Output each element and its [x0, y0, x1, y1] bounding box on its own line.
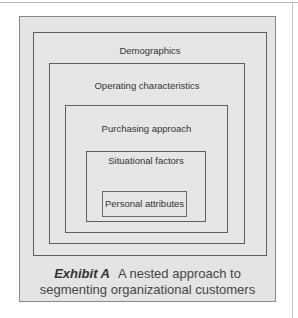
- exhibit-label: Exhibit A: [54, 266, 110, 281]
- layer-label-purchasing-approach: Purchasing approach: [65, 123, 228, 134]
- caption-title-part1: A nested approach to: [118, 266, 241, 281]
- caption-line-1: Exhibit AA nested approach to: [19, 266, 276, 281]
- layer-label-demographics: Demographics: [33, 45, 267, 56]
- layer-label-personal-attributes: Personal attributes: [102, 198, 187, 209]
- page-right-rule: [292, 2, 293, 318]
- page-top-rule: [0, 2, 298, 3]
- layer-label-situational-factors: Situational factors: [86, 155, 206, 166]
- layer-label-operating-characteristics: Operating characteristics: [49, 80, 245, 91]
- caption-line-2: segmenting organizational customers: [19, 282, 276, 297]
